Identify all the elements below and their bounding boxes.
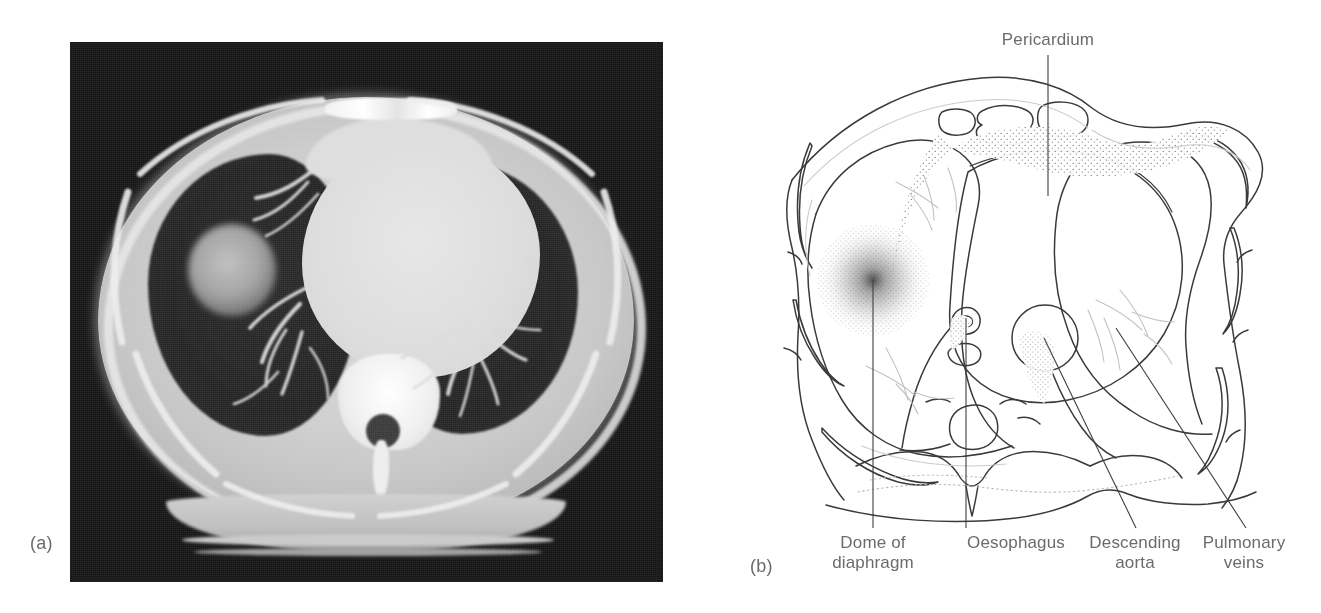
label-descending-aorta: Descending aorta [1078,533,1192,573]
panel-a-tag: (a) [30,533,53,554]
posterior-mediastinum-right [902,326,952,448]
figure-container: (a) [0,0,1321,613]
paraspinal-muscle-left [1090,455,1182,478]
left-lung-medial [1055,160,1213,434]
rib-left-5 [1233,330,1248,342]
spinous-process [966,486,978,516]
posterior-skin-line [826,490,1256,521]
cartilage-left [939,109,975,135]
crus-left-2 [1018,417,1040,424]
label-pericardium: Pericardium [968,30,1128,50]
diaphragm-crus-right [926,399,950,402]
back-skin-line [787,180,844,500]
panel-b-tag: (b) [750,556,773,577]
label-dome-of-diaphragm: Dome of diaphragm [813,533,933,573]
rib-right-5 [784,348,801,360]
diagram-svg [700,0,1321,613]
rib-left-3 [1198,368,1228,474]
diaphragm-crus-left [1000,400,1026,405]
ct-scan-image [70,42,663,582]
left-lung-outline [1080,142,1211,424]
ct-ribs-and-vessels [70,42,663,582]
anatomy-line-diagram [700,0,1321,613]
heart-outline [950,151,1183,403]
paraspinal-right [900,444,950,451]
rib-left-6 [1226,430,1240,442]
label-oesophagus: Oesophagus [956,533,1076,553]
posterior-mediastinum-left [1052,372,1116,458]
leader-pulmonary-veins [1116,328,1246,528]
mediastinal-fat-stipple [892,127,1228,404]
rib-left-4 [1237,250,1252,262]
label-pulmonary-veins: Pulmonary veins [1192,533,1296,573]
leader-descending-aorta [1044,338,1136,528]
vertebral-body-outline [856,452,1090,486]
